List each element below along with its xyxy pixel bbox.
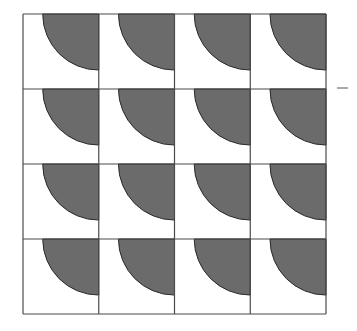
quarter-disc-tile xyxy=(270,164,326,220)
quarter-disc-tile xyxy=(194,239,250,295)
quarter-disc-tile xyxy=(270,239,326,295)
quarter-disc-tile xyxy=(118,89,174,145)
quarter-disc-tile xyxy=(118,239,174,295)
quarter-disc-tile xyxy=(270,14,326,70)
quarter-disc-tile xyxy=(43,239,99,295)
quarter-disc-tile xyxy=(194,89,250,145)
quarter-disc-tile xyxy=(118,14,174,70)
tile-grid xyxy=(43,14,326,295)
quarter-disc-tile xyxy=(43,89,99,145)
quarter-disc-tile xyxy=(194,164,250,220)
quarter-disc-tile xyxy=(270,89,326,145)
quarter-disc-tile xyxy=(43,164,99,220)
tiling-diagram xyxy=(0,0,357,331)
quarter-disc-tile xyxy=(43,14,99,70)
quarter-disc-tile xyxy=(194,14,250,70)
quarter-disc-tile xyxy=(118,164,174,220)
